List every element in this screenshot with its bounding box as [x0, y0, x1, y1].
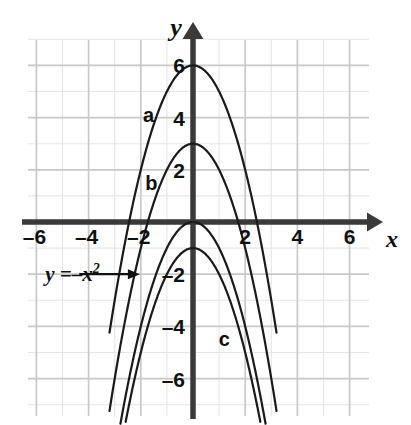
coordinate-plane-svg: yx–6–4–2246642–2–4–6abcy =–x2: [0, 0, 411, 425]
x-tick-label-2: –2: [127, 225, 150, 248]
graph-figure: yx–6–4–2246642–2–4–6abcy =–x2: [0, 0, 411, 425]
y-tick-label-4: –4: [162, 315, 186, 338]
curve-label-b: b: [145, 172, 157, 194]
axis-lines: [22, 22, 383, 419]
x-tick-label-4: 4: [292, 225, 304, 248]
y-tick-label-3: –2: [162, 263, 185, 286]
y-tick-label-0: 6: [173, 54, 185, 77]
y-tick-label-2: 2: [173, 159, 185, 182]
curve-label-a: a: [143, 104, 155, 126]
text-labels: yx–6–4–2246642–2–4–6abcy =–x2: [23, 13, 398, 391]
y-tick-label-5: –6: [162, 368, 185, 391]
x-tick-label-1: –4: [75, 225, 99, 248]
x-tick-label-5: 6: [344, 225, 356, 248]
curve-label-c: c: [219, 328, 230, 350]
equation-label-base-curve: y =–x2: [42, 261, 100, 286]
x-axis-name: x: [385, 226, 398, 252]
x-tick-label-0: –6: [23, 225, 46, 248]
x-tick-label-3: 2: [239, 225, 251, 248]
y-axis-name: y: [167, 13, 182, 42]
y-tick-label-1: 4: [173, 107, 185, 130]
